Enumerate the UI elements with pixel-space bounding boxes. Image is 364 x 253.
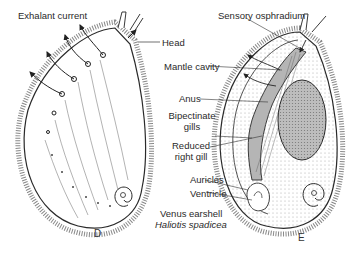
label-anus: Anus (179, 93, 201, 104)
label-mantle-cavity: Mantle cavity (164, 61, 219, 72)
label-reduced-right-gill-line2: right gill (166, 151, 216, 162)
label-sensory-osphradium: Sensory osphradium (218, 10, 305, 21)
figure-letter-d: D (94, 228, 101, 239)
label-reduced-right-gill: Reduced right gill (166, 140, 216, 162)
label-ventricle: Ventricle (190, 188, 226, 199)
label-bipectinate-gills-line2: gills (168, 121, 216, 132)
caption-common-name: Venus earshell (160, 208, 222, 219)
label-exhalant-current: Exhalant current (18, 10, 87, 21)
label-head: Head (162, 37, 185, 48)
shell-ventral-anatomy (200, 14, 343, 234)
shell-dorsal-view (18, 12, 160, 235)
caption-scientific-name: Haliotis spadicea (155, 219, 227, 230)
figure-letter-e: E (298, 232, 305, 243)
haliotis-anatomy-diagram: Exhalant current Head D Sensory osphradi… (0, 0, 364, 253)
label-auricles: Auricles (190, 174, 224, 185)
label-bipectinate-gills-line1: Bipectinate (168, 110, 216, 121)
label-reduced-right-gill-line1: Reduced (166, 140, 216, 151)
label-bipectinate-gills: Bipectinate gills (168, 110, 216, 132)
